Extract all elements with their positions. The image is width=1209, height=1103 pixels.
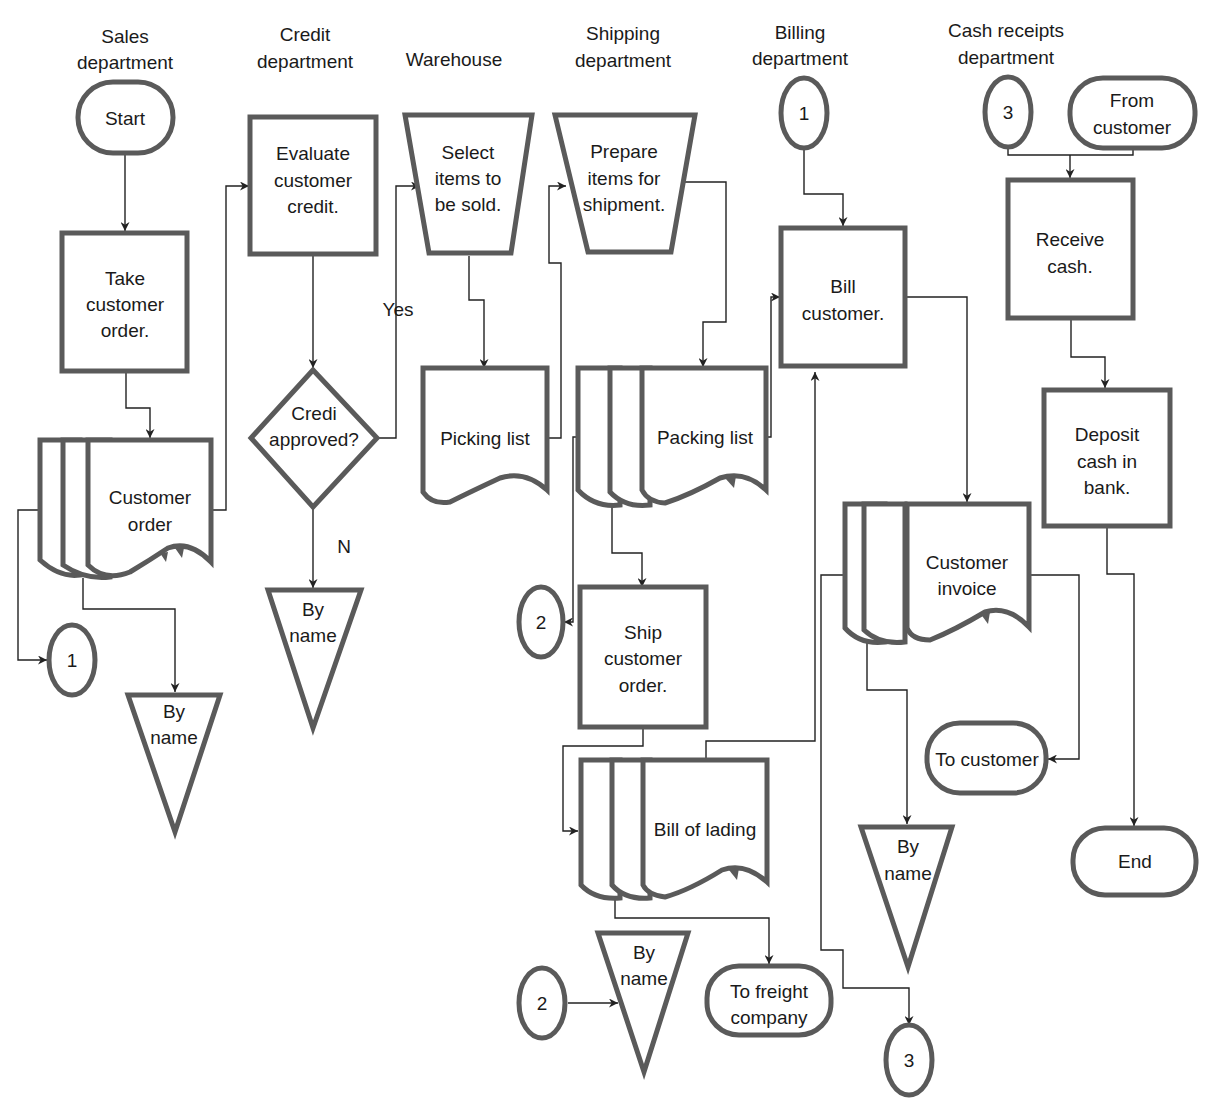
svg-text:Receive: Receive [1036,229,1105,250]
svg-text:department: department [575,50,672,71]
off-page-connector-3-cash: 3 [985,77,1031,147]
svg-text:Credit: Credit [280,24,331,45]
svg-text:Billing: Billing [775,22,826,43]
svg-text:Bill of lading: Bill of lading [654,819,756,840]
svg-text:credit.: credit. [287,196,339,217]
svg-text:order.: order. [619,675,668,696]
department-header-credit: Credit department [257,24,354,72]
take-customer-order-process: Take customer order. [62,233,187,371]
svg-text:2: 2 [536,612,547,633]
from-customer-terminal: From customer [1070,78,1195,148]
customer-order-multi-document: Customer order [40,440,211,578]
credit-approved-decision: Credi approved? [251,370,377,507]
svg-text:name: name [620,968,668,989]
off-page-connector-3-billing: 3 [886,1025,932,1095]
svg-text:items to: items to [435,168,502,189]
file-by-name-credit: By name [268,590,361,728]
svg-text:customer: customer [604,648,683,669]
svg-text:order: order [128,514,173,535]
svg-text:bank.: bank. [1084,477,1130,498]
svg-text:Warehouse: Warehouse [406,49,502,70]
department-header-warehouse: Warehouse [406,49,502,70]
svg-text:customer: customer [86,294,165,315]
svg-text:cash in: cash in [1077,451,1137,472]
svg-text:From: From [1110,90,1154,111]
svg-text:department: department [257,51,354,72]
svg-text:Customer: Customer [926,552,1009,573]
svg-text:Customer: Customer [109,487,192,508]
end-terminal: End [1073,828,1196,895]
off-page-connector-2-shipping-top: 2 [519,587,563,657]
department-header-sales: Sales department [77,26,174,73]
department-header-billing: Billing department [752,22,849,69]
picking-list-document: Picking list [423,368,547,503]
svg-text:Select: Select [442,142,496,163]
svg-text:be sold.: be sold. [435,194,502,215]
svg-text:To customer: To customer [935,749,1039,770]
department-header-shipping: Shipping department [575,23,672,71]
off-page-connector-1-billing: 1 [781,78,827,148]
ship-customer-order-process: Ship customer order. [580,587,706,727]
no-branch-label: N [337,536,351,557]
svg-text:End: End [1118,851,1152,872]
to-customer-terminal: To customer [927,723,1046,793]
svg-text:department: department [752,48,849,69]
svg-text:name: name [884,863,932,884]
svg-text:order.: order. [101,320,150,341]
svg-text:customer.: customer. [802,303,884,324]
start-terminal: Start [78,82,173,153]
svg-text:1: 1 [67,650,78,671]
svg-text:cash.: cash. [1047,256,1092,277]
svg-text:Credi: Credi [291,403,336,424]
svg-text:department: department [958,47,1055,68]
svg-text:customer: customer [274,170,353,191]
bill-of-lading-multi-document: Bill of lading [581,760,767,898]
select-items-manual-operation: Select items to be sold. [405,115,532,253]
deposit-cash-process: Deposit cash in bank. [1044,390,1170,526]
svg-text:approved?: approved? [269,429,359,450]
to-freight-company-terminal: To freight company [707,966,831,1035]
svg-text:Cash receipts: Cash receipts [948,20,1064,41]
receive-cash-process: Receive cash. [1008,180,1133,318]
svg-text:Ship: Ship [624,622,662,643]
svg-text:3: 3 [904,1050,915,1071]
svg-text:name: name [289,625,337,646]
svg-text:By: By [163,701,186,722]
svg-text:3: 3 [1003,102,1014,123]
svg-text:2: 2 [537,993,548,1014]
svg-text:items for: items for [588,168,662,189]
svg-text:Evaluate: Evaluate [276,143,350,164]
packing-list-multi-document: Packing list [578,368,766,505]
svg-text:Sales: Sales [101,26,149,47]
svg-text:Take: Take [105,268,145,289]
svg-text:By: By [302,599,325,620]
svg-text:Picking list: Picking list [440,428,530,449]
svg-text:name: name [150,727,198,748]
svg-text:company: company [730,1007,808,1028]
file-by-name-sales: By name [128,695,220,832]
customer-invoice-multi-document: Customer invoice [845,504,1029,643]
svg-text:invoice: invoice [937,578,996,599]
svg-text:Bill: Bill [830,276,855,297]
evaluate-credit-process: Evaluate customer credit. [250,117,376,254]
svg-text:shipment.: shipment. [583,194,665,215]
prepare-items-manual-operation: Prepare items for shipment. [555,115,695,252]
svg-text:department: department [77,52,174,73]
svg-text:1: 1 [799,103,810,124]
flowchart-canvas: Sales department Credit department Wareh… [0,0,1209,1103]
svg-text:By: By [633,942,656,963]
svg-text:Start: Start [105,108,146,129]
svg-text:Shipping: Shipping [586,23,660,44]
off-page-connector-2-shipping-bottom: 2 [519,968,565,1038]
svg-text:Prepare: Prepare [590,141,658,162]
department-header-cash-receipts: Cash receipts department [948,20,1064,68]
svg-text:To freight: To freight [730,981,809,1002]
bill-customer-process: Bill customer. [781,228,905,366]
svg-text:Packing list: Packing list [657,427,754,448]
off-page-connector-1-sales: 1 [49,625,95,695]
yes-branch-label: Yes [383,299,414,320]
file-by-name-billing: By name [861,827,952,967]
svg-text:By: By [897,836,920,857]
svg-text:customer: customer [1093,117,1172,138]
svg-text:Deposit: Deposit [1075,424,1140,445]
